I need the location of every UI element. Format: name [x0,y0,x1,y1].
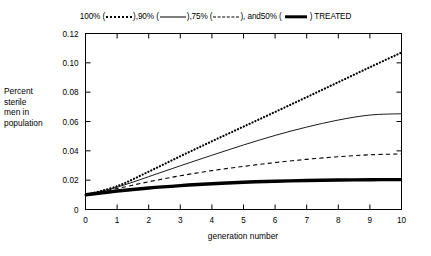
x-tick-label: 10 [397,216,407,225]
plot-area: 00.020.040.060.080.100.12 012345678910 [0,0,431,256]
x-tick-label: 9 [368,216,373,225]
y-tick-label: 0 [74,206,79,215]
x-tick-label: 2 [146,216,151,225]
x-tick-label: 1 [115,216,120,225]
x-tick-label: 4 [210,216,215,225]
data-curves [86,53,402,195]
y-tick-label: 0.04 [63,147,79,156]
x-tick-label: 0 [83,216,88,225]
x-tick-labels: 012345678910 [83,216,406,225]
x-tick-label: 3 [178,216,183,225]
y-tick-label: 0.06 [63,118,79,127]
x-tick-label: 8 [336,216,341,225]
series-line-100 [86,53,402,195]
y-tick-label: 0.08 [63,88,79,97]
y-tick-labels: 00.020.040.060.080.100.12 [63,30,79,215]
x-tick-label: 5 [241,216,246,225]
y-tick-label: 0.10 [63,59,79,68]
x-tick-label: 7 [304,216,309,225]
x-tick-label: 6 [273,216,278,225]
y-tick-label: 0.12 [63,30,79,39]
figure: 100% (), 90% (), 75% (), and 50% () TREA… [0,0,431,256]
y-tick-label: 0.02 [63,176,79,185]
